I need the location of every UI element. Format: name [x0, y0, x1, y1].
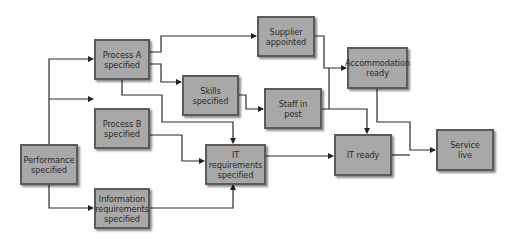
node-label: Information requirements specified: [95, 194, 149, 224]
node-label: Process A specified: [103, 50, 141, 70]
node-label: Process B specified: [103, 119, 141, 139]
edge-processA-supplier: [150, 36, 256, 52]
node-it-ready: IT ready: [334, 134, 392, 176]
node-performance-specified: Performance specified: [20, 144, 78, 185]
node-label: IT ready: [347, 150, 380, 160]
edge-processB-itreq: [150, 135, 204, 161]
node-label: Supplier appointed: [266, 27, 306, 47]
node-skills-specified: Skills specified: [182, 75, 239, 116]
edge-processA-skills: [150, 64, 181, 82]
node-label: Service live: [450, 140, 480, 160]
edge-supplier-accommodation: [314, 36, 346, 68]
edge-staff-itready: [321, 109, 367, 133]
node-label: Skills specified: [193, 86, 229, 106]
dependency-diagram: Process A specified Supplier appointed A…: [0, 0, 513, 246]
node-supplier-appointed: Supplier appointed: [257, 16, 315, 57]
node-process-a: Process A specified: [94, 39, 150, 80]
edge-skills-staff: [238, 95, 263, 109]
edge-performance-processA: [49, 59, 93, 144]
node-service-live: Service live: [436, 129, 494, 171]
node-it-requirements: IT requirements specified: [205, 144, 266, 185]
node-process-b: Process B specified: [94, 108, 150, 149]
node-information-requirements: Information requirements specified: [94, 188, 150, 229]
node-label: IT requirements specified: [209, 150, 263, 180]
node-accommodation-ready: Accommodation ready: [347, 47, 408, 89]
edge-performance-info: [49, 184, 93, 208]
node-label: Staff in post: [279, 99, 307, 119]
node-label: Accommodation ready: [345, 58, 410, 78]
node-staff-in-post: Staff in post: [264, 88, 322, 129]
edge-info-itreq: [150, 185, 233, 208]
node-label: Performance specified: [24, 155, 75, 175]
